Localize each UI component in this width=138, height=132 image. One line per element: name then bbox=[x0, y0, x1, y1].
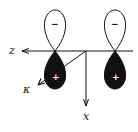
x-axis-label: x bbox=[83, 111, 89, 122]
y-axis-arrowhead bbox=[38, 79, 45, 86]
y-axis-label: κ bbox=[23, 84, 30, 95]
orbital-1-lower-sign: + bbox=[52, 73, 60, 82]
z-axis-label: z bbox=[9, 45, 15, 56]
orbital-2-lower-sign: + bbox=[112, 73, 120, 82]
orbital-1-upper-sign: − bbox=[51, 20, 59, 29]
orbital-2-upper-sign: − bbox=[111, 20, 119, 29]
p-orbital-diagram: z x κ − + − + bbox=[0, 0, 138, 132]
orbital-1-lower-lobe bbox=[44, 51, 65, 89]
orbital-1-upper-lobe bbox=[44, 10, 65, 51]
orbital-2-upper-lobe bbox=[104, 10, 125, 51]
orbital-2-lower-lobe bbox=[104, 51, 125, 89]
